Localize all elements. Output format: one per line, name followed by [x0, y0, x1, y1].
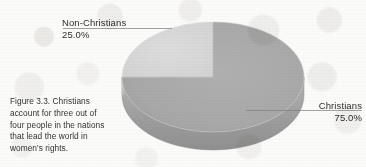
pie-chart-figure: Non-Christians 25.0% Christians 75.0% Fi… — [0, 0, 366, 167]
pie-top-face — [122, 22, 304, 132]
figure-caption-line: that lead the world in — [10, 131, 118, 143]
figure-caption-line: Figure 3.3. Christians — [10, 96, 118, 108]
figure-caption-line: four people in the nations — [10, 120, 118, 132]
callout-label-non-christians-value: 25.0% — [62, 29, 126, 41]
callout-label-non-christians-name: Non-Christians — [62, 17, 126, 29]
figure-caption: Figure 3.3. Christians account for three… — [10, 96, 118, 155]
slice-top-non-christians — [122, 22, 213, 77]
callout-label-christians-name: Christians — [319, 100, 362, 112]
figure-caption-line: account for three out of — [10, 108, 118, 120]
callout-label-christians: Christians 75.0% — [319, 100, 362, 123]
figure-caption-line: women's rights. — [10, 143, 118, 155]
callout-label-non-christians: Non-Christians 25.0% — [62, 17, 126, 40]
callout-label-christians-value: 75.0% — [319, 112, 362, 124]
